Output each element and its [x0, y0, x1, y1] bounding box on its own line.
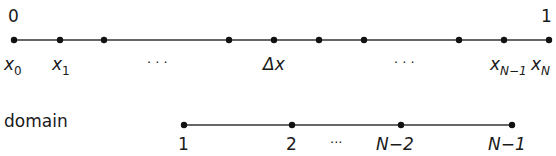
domain-ellipsis: ··· — [330, 136, 342, 149]
diagram-lines — [0, 0, 556, 156]
start-label: 0 — [8, 8, 19, 25]
label-x0: x0 — [4, 56, 22, 73]
label-xN: xN — [531, 56, 550, 73]
label-xN-1: xN−1 — [490, 56, 527, 73]
domain-label-N-2: N−2 — [376, 136, 414, 153]
domain-label-2: 2 — [286, 136, 297, 153]
ellipsis-left: · · · — [147, 56, 168, 69]
label-delta-x: Δx — [263, 56, 285, 73]
label-x1: x1 — [52, 56, 70, 73]
domain-label-1: 1 — [178, 136, 189, 153]
domain-title: domain — [4, 113, 68, 130]
domain-label-N-1: N−1 — [488, 136, 526, 153]
ellipsis-right: · · · — [394, 56, 415, 69]
end-label: 1 — [541, 8, 552, 25]
